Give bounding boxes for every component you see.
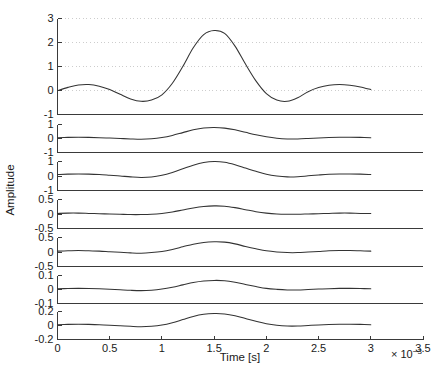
- y-tick-label: 0: [47, 319, 53, 331]
- y-tick-label: 3: [47, 12, 53, 24]
- y-tick-label: 0.5: [38, 231, 53, 243]
- x-tick-label: 2.5: [311, 342, 326, 354]
- exponent-base: × 10: [391, 348, 413, 360]
- y-tick-label: 0: [47, 283, 53, 295]
- y-tick-label: 0.1: [38, 269, 53, 281]
- x-axis-label: Time [s]: [220, 351, 260, 363]
- y-tick-label: 0: [47, 208, 53, 220]
- x-tick-label: 0.5: [102, 342, 117, 354]
- subplot-panel-4: -0.500.5: [35, 193, 423, 234]
- y-tick-label: 2: [47, 36, 53, 48]
- waveform-figure: -10123-101-101-0.500.5-0.500.5-0.100.1-0…: [0, 0, 445, 370]
- y-tick-label: 0: [47, 84, 53, 96]
- y-tick-label: 0: [47, 132, 53, 144]
- subplot-panel-5: -0.500.5: [35, 231, 423, 272]
- y-tick-label: 1: [47, 155, 53, 167]
- y-tick-label: 0.5: [38, 193, 53, 205]
- y-tick-label: 0: [47, 246, 53, 258]
- subplot-panel-7: -0.200.2: [35, 305, 423, 345]
- y-tick-label: 1: [47, 118, 53, 130]
- y-tick-label: 0: [47, 170, 53, 182]
- waveform-line-panel-2: [58, 128, 371, 140]
- subplot-panel-2: -101: [44, 118, 423, 158]
- x-tick-label: 0: [54, 342, 60, 354]
- waveform-line-panel-6: [58, 280, 371, 290]
- x-tick-label: 3: [368, 342, 374, 354]
- waveform-line-panel-7: [58, 314, 371, 327]
- waveform-line-panel-5: [58, 242, 371, 253]
- y-axis-label: Amplitude: [4, 164, 16, 215]
- subplot-panel-6: -0.100.1: [35, 269, 423, 309]
- multi-panel-waveform-plot: -10123-101-101-0.500.5-0.500.5-0.100.1-0…: [0, 0, 445, 370]
- subplot-panel-1: -10123: [44, 12, 423, 120]
- subplot-panel-3: -101: [44, 155, 423, 196]
- panels-group: -10123-101-101-0.500.5-0.500.5-0.100.1-0…: [35, 12, 423, 345]
- y-tick-label: 0.2: [38, 305, 53, 317]
- x-axis-exponent-label: × 10−3: [391, 347, 422, 360]
- x-tick-label: 2: [263, 342, 269, 354]
- waveform-line-panel-3: [58, 161, 371, 177]
- exponent-power: −3: [413, 347, 423, 356]
- y-tick-label: -0.2: [35, 333, 54, 345]
- waveform-line-panel-4: [58, 206, 371, 215]
- y-tick-label: 1: [47, 60, 53, 72]
- x-tick-label: 1: [159, 342, 165, 354]
